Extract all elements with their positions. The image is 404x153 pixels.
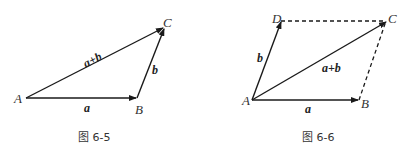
- vector-label-b: b: [152, 63, 158, 77]
- point-label-C: C: [163, 15, 172, 30]
- figure-6-5: A B C a+b b a 图 6-5: [13, 15, 172, 144]
- vector-label-a-plus-b: a+b: [322, 61, 341, 75]
- point-label-D: D: [271, 11, 282, 26]
- point-label-B: B: [135, 102, 143, 117]
- figure-caption: 图 6-6: [302, 131, 334, 144]
- vector-a-plus-b: [252, 22, 386, 100]
- vector-label-b: b: [257, 51, 263, 65]
- point-label-B: B: [361, 96, 369, 111]
- figure-caption: 图 6-5: [78, 131, 110, 144]
- vector-label-a: a: [305, 102, 311, 116]
- point-label-C: C: [388, 11, 397, 26]
- dashed-edge-BC: [359, 21, 386, 100]
- vector-label-a: a: [84, 101, 90, 115]
- vector-addition-diagrams: A B C a+b b a 图 6-5 A B C D a+b b a 图 6-…: [0, 0, 404, 153]
- point-label-A: A: [241, 93, 250, 108]
- figure-6-6: A B C D a+b b a 图 6-6: [241, 11, 397, 144]
- vector-label-a-plus-b: a+b: [81, 49, 104, 70]
- point-label-A: A: [13, 91, 22, 106]
